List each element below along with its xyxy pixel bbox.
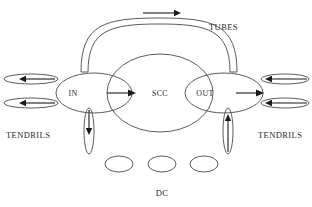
tendrils-right-label: TENDRILS bbox=[258, 130, 302, 140]
tendril-right-upper bbox=[261, 74, 309, 84]
tendril-bottom-right bbox=[223, 108, 233, 154]
scc-label: SCC bbox=[152, 89, 168, 98]
tendril-left-upper bbox=[4, 74, 58, 84]
tendril-left-lower bbox=[4, 98, 58, 108]
dc-component-2 bbox=[148, 156, 176, 172]
bowtie-diagram: IN SCC OUT TUBES TENDRILS TENDRILS DC bbox=[0, 0, 312, 207]
dc-label: DC bbox=[156, 188, 169, 198]
tendrils-left-label: TENDRILS bbox=[6, 130, 50, 140]
tendril-bottom-right-arrow-head bbox=[225, 114, 231, 121]
tendril-right-lower-arrow-head bbox=[265, 100, 272, 106]
out-label: OUT bbox=[196, 89, 213, 98]
out-flow-arrow bbox=[236, 90, 264, 97]
dc-component-1 bbox=[105, 156, 133, 172]
dc-component-3 bbox=[190, 156, 218, 172]
in-label: IN bbox=[68, 89, 77, 98]
tubes-label: TUBES bbox=[209, 22, 238, 32]
tendril-left-upper-arrow-head bbox=[19, 76, 26, 82]
diagram-canvas: IN SCC OUT TUBES TENDRILS TENDRILS DC bbox=[0, 0, 312, 207]
tendril-bottom-left bbox=[84, 108, 94, 154]
tendril-bottom-left-arrow-head bbox=[86, 128, 92, 135]
tendril-left-lower-arrow-head bbox=[19, 100, 26, 106]
tendril-right-lower bbox=[261, 98, 309, 108]
tube-flow-arrow bbox=[143, 10, 181, 17]
tube-flow-arrow-head bbox=[174, 10, 181, 17]
tendril-right-upper-arrow-head bbox=[265, 76, 272, 82]
